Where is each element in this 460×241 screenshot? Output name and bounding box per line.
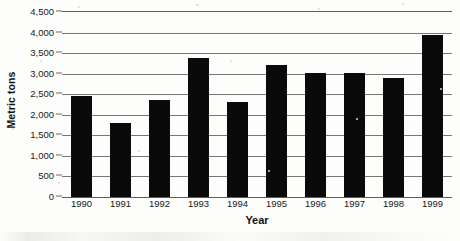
y-axis-tick-labels: 05001,0001,5002,0002,5003,0003,5004,0004…	[22, 0, 62, 241]
x-axis-tick-labels: 1990199119921993199419951996199719981999	[62, 198, 452, 214]
x-axis-tick-label: 1990	[71, 198, 92, 209]
x-axis-tick-label: 1995	[266, 198, 287, 209]
plot-area	[62, 11, 452, 198]
bar	[383, 78, 404, 197]
bar	[266, 65, 287, 197]
bar	[422, 35, 443, 197]
bar	[344, 73, 365, 197]
scan-smudge	[0, 232, 460, 241]
y-axis-tick-label: 500	[38, 170, 54, 181]
bar-column	[344, 12, 365, 197]
x-axis-tick-label: 1998	[383, 198, 404, 209]
bar-column	[383, 12, 404, 197]
bar-column	[110, 12, 131, 197]
scan-speck	[78, 6, 80, 8]
bar-column	[422, 12, 443, 197]
x-axis-tick-label: 1996	[305, 198, 326, 209]
x-axis-title: Year	[62, 214, 452, 226]
bar	[305, 73, 326, 197]
y-axis-title-text: Metric tons	[5, 71, 17, 128]
scan-speck	[318, 8, 320, 10]
bar-column	[71, 12, 92, 197]
bar	[149, 100, 170, 197]
scan-speck	[12, 128, 14, 130]
bar	[188, 58, 209, 197]
bar-column	[305, 12, 326, 197]
y-axis-tick-label: 0	[49, 191, 54, 202]
x-axis-tick-label: 1999	[422, 198, 443, 209]
bar	[71, 96, 92, 197]
y-axis-tick-label: 4,500	[30, 6, 54, 17]
bar-chart-figure: Metric tons 05001,0001,5002,0002,5003,00…	[0, 0, 460, 241]
y-axis-tick-label: 3,000	[30, 67, 54, 78]
bar-column	[266, 12, 287, 197]
y-axis-tick-label: 4,000	[30, 26, 54, 37]
y-axis-tick-label: 2,500	[30, 88, 54, 99]
x-axis-tick-label: 1997	[344, 198, 365, 209]
scan-speck	[402, 3, 404, 5]
y-axis-title: Metric tons	[0, 0, 22, 200]
x-axis-tick-label: 1994	[227, 198, 248, 209]
bar-column	[149, 12, 170, 197]
y-axis-tick-label: 3,500	[30, 47, 54, 58]
x-axis-tick-label: 1993	[188, 198, 209, 209]
x-axis-tick-label: 1991	[110, 198, 131, 209]
x-axis-tick-label: 1992	[149, 198, 170, 209]
bar	[227, 102, 248, 197]
y-axis-tick-label: 1,500	[30, 129, 54, 140]
bar-column	[227, 12, 248, 197]
bar	[110, 123, 131, 197]
y-axis-tick-label: 1,000	[30, 149, 54, 160]
bar-series	[62, 12, 452, 197]
y-axis-tick-label: 2,000	[30, 108, 54, 119]
bar-column	[188, 12, 209, 197]
scan-speck	[196, 4, 199, 6]
